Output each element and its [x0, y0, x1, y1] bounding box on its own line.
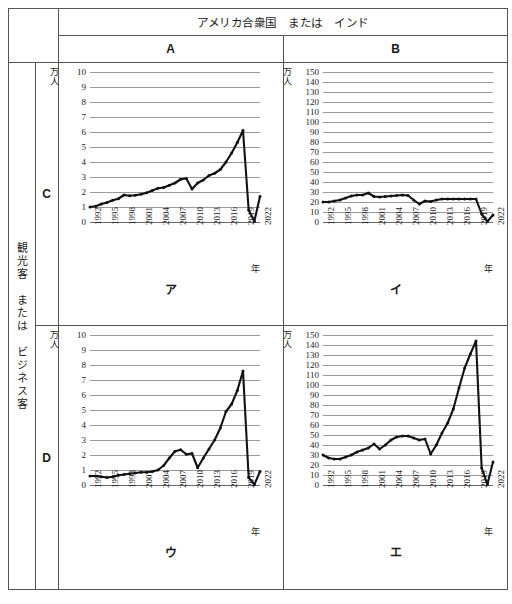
side-vertical-label-text: 観光客 または ビジネス客	[15, 242, 28, 411]
chart-panel-e	[283, 325, 508, 590]
chart-panel-a	[58, 62, 283, 325]
side-vertical-label: 観光客 または ビジネス客	[8, 62, 35, 590]
chart-panel-u	[58, 325, 283, 590]
exam-figure-sheet: アメリカ合衆国 または インド A B 観光客 または ビジネス客 C D 01…	[0, 0, 512, 604]
row-label-c: C	[35, 62, 58, 325]
header-column-b: B	[283, 35, 508, 62]
row-label-d: D	[35, 325, 58, 590]
header-column-a: A	[58, 35, 283, 62]
chart-panel-i	[283, 62, 508, 325]
header-country-title: アメリカ合衆国 または インド	[58, 8, 508, 35]
